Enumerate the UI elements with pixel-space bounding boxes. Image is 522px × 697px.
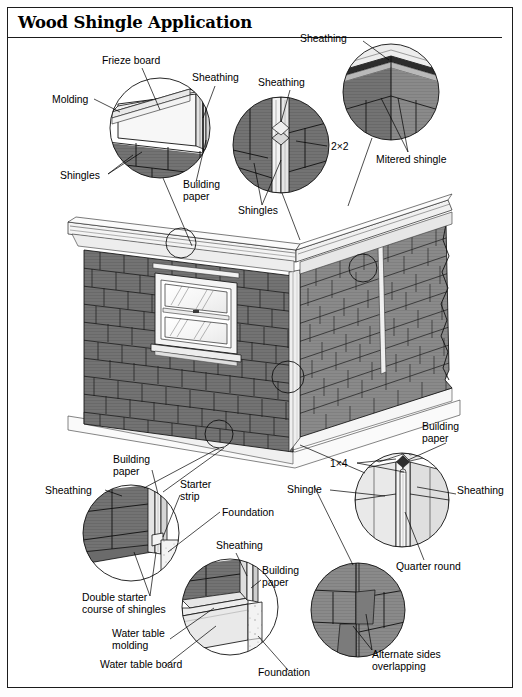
- window-sash-lock: [193, 310, 199, 313]
- label-paper-4: paper: [422, 433, 449, 444]
- label-paper-3: paper: [262, 577, 289, 588]
- label-building-4: Building: [422, 421, 459, 432]
- label-course-shing: course of shingles: [82, 604, 166, 615]
- technical-illustration: Frieze board Molding Sheathing Shingles …: [0, 0, 522, 697]
- label-overlapping: overlapping: [372, 661, 426, 672]
- label-shingle: Shingle: [287, 484, 322, 495]
- label-starter: Starter: [180, 479, 212, 490]
- label-sheathing-1: Sheathing: [192, 72, 239, 83]
- label-frieze-board: Frieze board: [102, 55, 161, 66]
- label-alternate-sides: Alternate sides: [372, 649, 441, 660]
- label-molding-2: molding: [112, 640, 149, 651]
- label-mitered-shingle: Mitered shingle: [376, 154, 447, 165]
- label-building-2: Building: [113, 454, 150, 465]
- labels-alternate-overlap: Alternate sides overlapping: [372, 649, 441, 672]
- label-foundation-2: Foundation: [258, 667, 310, 678]
- illustration-page: Wood Shingle Application: [0, 0, 522, 697]
- label-quarter-round: Quarter round: [396, 561, 461, 572]
- label-sheathing-2: Sheathing: [258, 77, 305, 88]
- label-shingles-1: Shingles: [60, 170, 100, 181]
- label-sheathing-6: Sheathing: [457, 485, 504, 496]
- label-water-table: Water table: [112, 628, 165, 639]
- label-building-1: Building: [183, 179, 220, 190]
- label-strip: strip: [180, 491, 200, 502]
- label-1x4: 1×4: [330, 458, 348, 469]
- label-paper-1: paper: [183, 191, 210, 202]
- label-molding: Molding: [52, 94, 89, 105]
- label-sheathing-4: Sheathing: [45, 485, 92, 496]
- label-foundation-1: Foundation: [222, 507, 274, 518]
- label-water-table-board: Water table board: [100, 659, 182, 670]
- house-main-illustration: [68, 194, 460, 468]
- label-sheathing-5: Sheathing: [216, 540, 263, 551]
- label-shingles-2: Shingles: [238, 205, 278, 216]
- label-paper-2: paper: [113, 466, 140, 477]
- detail-corner-board-detail: Sheathing 2×2 Shingles: [233, 77, 349, 240]
- label-sheathing-3: Sheathing: [300, 33, 347, 44]
- label-2x2: 2×2: [331, 141, 349, 152]
- label-double-starter: Double starter: [82, 592, 148, 603]
- label-building-3: Building: [262, 565, 299, 576]
